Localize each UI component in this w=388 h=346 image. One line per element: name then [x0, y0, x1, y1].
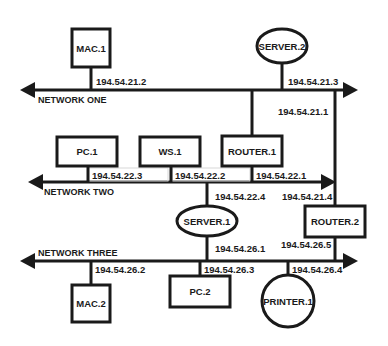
- network-diagram: NETWORK ONE MAC.1 194.54.21.2 SERVER.2 1…: [0, 0, 388, 346]
- node-server1: 194.54.22.4 SERVER.1 194.54.26.1: [177, 182, 266, 261]
- node-ws1: WS.1 194.54.22.2: [140, 137, 225, 182]
- node-mac1: MAC.1 194.54.21.2: [72, 29, 146, 90]
- server1-label: SERVER.1: [184, 216, 232, 227]
- printer1-label: PRINTER.1: [263, 296, 313, 307]
- server2-ip: 194.54.21.3: [288, 76, 338, 87]
- arrow-right-icon: [343, 253, 358, 269]
- router1-net1-ip: 194.54.21.1: [278, 106, 329, 117]
- router1-net2-ip: 194.54.22.1: [256, 170, 307, 181]
- mac2-ip: 194.54.26.2: [95, 264, 145, 275]
- node-printer1: 194.54.26.4 PRINTER.1: [262, 261, 343, 327]
- node-mac2: 194.54.26.2 MAC.2: [72, 261, 145, 322]
- server1-net3-ip: 194.54.26.1: [215, 243, 266, 254]
- mac1-label: MAC.1: [76, 43, 106, 54]
- router2-net3-ip: 194.54.26.5: [281, 239, 332, 250]
- node-router1: ROUTER.1 194.54.22.1: [222, 136, 307, 182]
- arrow-left-icon: [28, 174, 43, 190]
- network-three-label: NETWORK THREE: [38, 248, 118, 258]
- router1-label: ROUTER.1: [228, 146, 277, 157]
- arrow-right-icon: [343, 82, 358, 98]
- router2-net1-ip: 194.54.21.4: [282, 191, 333, 202]
- router2-label: ROUTER.2: [311, 216, 359, 227]
- node-router2: ROUTER.2 194.54.26.5: [281, 206, 365, 261]
- node-pc1: PC.1 194.54.22.3: [57, 137, 142, 182]
- pc1-ip: 194.54.22.3: [92, 170, 142, 181]
- ws1-ip: 194.54.22.2: [175, 170, 225, 181]
- server1-net2-ip: 194.54.22.4: [215, 191, 266, 202]
- arrow-left-icon: [20, 82, 35, 98]
- node-pc2: 194.54.26.3 PC.2: [170, 261, 254, 307]
- mac1-ip: 194.54.21.2: [96, 76, 146, 87]
- pc2-label: PC.2: [189, 286, 210, 297]
- arrow-left-icon: [20, 253, 35, 269]
- server2-label: SERVER.2: [259, 41, 306, 52]
- pc2-ip: 194.54.26.3: [204, 264, 254, 275]
- mac2-label: MAC.2: [76, 298, 106, 309]
- printer1-ip: 194.54.26.4: [292, 264, 343, 275]
- network-two-label: NETWORK TWO: [44, 187, 114, 197]
- network-one-label: NETWORK ONE: [38, 95, 107, 105]
- pc1-label: PC.1: [76, 146, 98, 157]
- node-server2: SERVER.2 194.54.21.3: [257, 29, 338, 90]
- ws1-label: WS.1: [158, 146, 182, 157]
